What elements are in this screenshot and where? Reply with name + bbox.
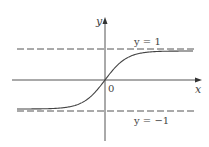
upper-asymptote-label: y = 1: [133, 36, 161, 47]
lower-asymptote-label: y = −1: [133, 115, 169, 126]
x-axis-arrow-icon: [195, 78, 202, 83]
y-axis-label: y: [95, 15, 103, 28]
x-axis-label: x: [195, 83, 202, 96]
y-axis-arrow-icon: [103, 17, 108, 24]
graph-canvas: y x 0 y = 1 y = −1: [0, 0, 209, 147]
origin-label: 0: [108, 83, 114, 94]
